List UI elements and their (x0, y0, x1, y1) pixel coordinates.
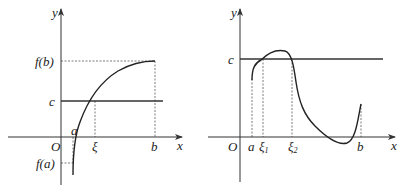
left-origin-label: O (51, 139, 61, 154)
intermediate-value-theorem-diagram: y x O f(b) c f(a) a ξ b y x O c a ξ1 ξ2 … (0, 0, 400, 195)
left-fb-label: f(b) (35, 54, 54, 69)
left-a-label: a (71, 123, 78, 138)
right-function-curve (252, 50, 361, 143)
left-y-label: y (50, 5, 58, 20)
right-b-label: b (357, 139, 364, 154)
left-graph: y x O f(b) c f(a) a ξ b (8, 5, 183, 185)
left-function-curve (73, 61, 155, 175)
left-fa-label: f(a) (36, 156, 55, 171)
right-a-label: a (248, 139, 255, 154)
right-c-label: c (228, 52, 234, 67)
right-y-label: y (229, 5, 237, 20)
right-xi2-label: ξ2 (288, 139, 298, 155)
right-graph: y x O c a ξ1 ξ2 b (208, 5, 397, 182)
left-xi-label: ξ (92, 139, 98, 154)
right-xi1-label: ξ1 (259, 139, 269, 155)
right-x-label: x (390, 138, 397, 153)
left-x-label: x (176, 138, 183, 153)
left-b-label: b (151, 139, 158, 154)
right-origin-label: O (228, 139, 238, 154)
left-c-label: c (49, 94, 55, 109)
